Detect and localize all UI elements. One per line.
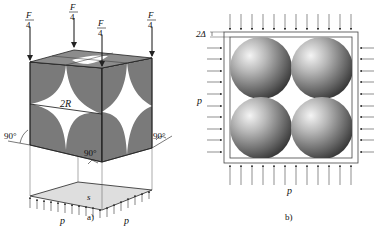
force-label-4: F 4	[147, 10, 156, 30]
top-pressure-arrows	[230, 14, 351, 30]
pressure-label-bottom-b: p	[286, 185, 292, 196]
bottom-pressure-arrows	[230, 165, 351, 185]
figure-b-sphere-packing: 2Δ	[196, 14, 374, 196]
force-label-3: F 4	[97, 18, 106, 38]
angle-left-label: 90°	[4, 131, 17, 141]
figure-a-cube-diagram: 2R F 4 F 4 F 4 F 4	[4, 2, 172, 226]
left-pressure-arrows	[207, 48, 222, 152]
svg-text:4: 4	[98, 28, 103, 38]
pressure-label-left-b: p	[196, 95, 202, 106]
base-plate	[30, 182, 152, 210]
cube-front-face	[30, 62, 102, 162]
sphere-top-left	[230, 37, 292, 99]
sphere-bottom-right	[291, 97, 353, 159]
plate-label: s	[87, 192, 91, 202]
right-pressure-arrows	[360, 48, 374, 152]
pressure-label-right: p	[123, 215, 129, 226]
gap-label: 2Δ	[196, 29, 206, 39]
force-label-2: F 4	[69, 2, 78, 22]
diameter-label: 2R	[60, 98, 71, 109]
svg-text:F: F	[147, 10, 154, 20]
angle-right-label: 90°	[153, 131, 166, 141]
cube-side-face	[102, 58, 152, 162]
svg-text:4: 4	[148, 20, 153, 30]
sphere-bottom-left	[230, 97, 292, 159]
svg-text:F: F	[25, 10, 32, 20]
svg-text:F: F	[97, 18, 104, 28]
svg-text:4: 4	[26, 20, 31, 30]
force-label-1: F 4	[25, 10, 34, 30]
caption-b: b)	[285, 212, 293, 222]
pressure-label-left: p	[59, 215, 65, 226]
sphere-top-right	[291, 37, 353, 99]
svg-text:4: 4	[70, 12, 75, 22]
caption-a: a)	[87, 212, 94, 222]
svg-text:F: F	[69, 2, 76, 12]
angle-bottom-label: 90°	[84, 148, 97, 158]
figure-canvas: 2R F 4 F 4 F 4 F 4	[0, 0, 378, 228]
